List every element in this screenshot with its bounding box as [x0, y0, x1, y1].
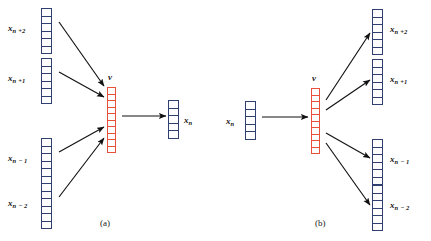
vector-cell	[41, 88, 52, 96]
arrow-layer	[0, 0, 431, 241]
vector-cell	[41, 66, 52, 74]
vector-cell	[372, 177, 383, 186]
arrow-xn-1-to-v	[59, 127, 104, 152]
label-hidden-b: v	[312, 73, 316, 83]
vector-cell	[41, 31, 52, 39]
arrow-v-to-xn+2	[326, 33, 370, 100]
vector-cell	[41, 8, 52, 16]
vector-cell	[372, 139, 383, 147]
vector-input-a-2	[41, 138, 52, 184]
vector-input-a-1	[41, 58, 52, 104]
vector-cell	[41, 38, 52, 46]
vector-cell	[372, 215, 383, 223]
arrow-v-to-xn-1	[326, 133, 370, 158]
label-output-b-3: xn − 2	[390, 195, 410, 212]
caption-panel-b: (b)	[315, 218, 326, 228]
vector-cell	[41, 213, 52, 221]
vector-cell	[41, 153, 52, 161]
vector-cell	[41, 221, 52, 230]
vector-cell	[41, 138, 52, 146]
vector-output-a-0	[168, 100, 179, 139]
vector-output-b-1	[372, 59, 383, 105]
vector-cell	[168, 108, 179, 116]
vector-cell	[41, 58, 52, 66]
vector-cell	[41, 146, 52, 154]
vector-cell	[245, 101, 256, 109]
vector-cell	[245, 116, 256, 124]
vector-cell	[372, 208, 383, 216]
vector-cell	[168, 130, 179, 139]
label-input-a-0: xn +2	[8, 18, 26, 35]
vector-cell	[245, 124, 256, 132]
vector-output-b-2	[372, 139, 383, 185]
vector-cell	[372, 47, 383, 56]
vector-cell	[41, 168, 52, 176]
vector-cell	[372, 32, 383, 40]
caption-panel-a: (a)	[100, 218, 110, 228]
label-output-a-0: xn	[184, 110, 192, 127]
vector-output-b-0	[372, 9, 383, 55]
vector-input-a-3	[41, 183, 52, 229]
vector-cell	[372, 200, 383, 208]
vector-cell	[245, 109, 256, 117]
vector-cell	[41, 73, 52, 81]
vector-input-a-0	[41, 8, 52, 54]
vector-cell	[372, 67, 383, 75]
vector-cell	[372, 162, 383, 170]
vector-cell	[41, 16, 52, 24]
vector-cell	[372, 89, 383, 97]
label-output-b-2: xn − 1	[390, 149, 410, 166]
vector-cell	[107, 146, 116, 154]
vector-cell	[372, 59, 383, 67]
vector-cell	[372, 185, 383, 193]
label-hidden-a: v	[108, 72, 112, 82]
vector-cell	[41, 81, 52, 89]
arrow-v-to-xn-2	[326, 143, 370, 205]
label-output-b-0: xn +2	[390, 19, 408, 36]
vector-cell	[372, 154, 383, 162]
label-input-b-0: xn	[226, 111, 234, 128]
vector-cell	[372, 82, 383, 90]
vector-cell	[372, 24, 383, 32]
vector-cell	[41, 183, 52, 191]
vector-cell	[168, 123, 179, 131]
vector-cell	[168, 100, 179, 108]
label-input-a-2: xn − 1	[8, 148, 28, 165]
vector-cell	[41, 46, 52, 55]
vector-input-b-0	[245, 101, 256, 140]
vector-cell	[41, 96, 52, 105]
vector-cell	[41, 206, 52, 214]
vector-cell	[41, 191, 52, 199]
vector-cell	[372, 97, 383, 106]
vector-cell	[311, 147, 320, 155]
vector-cell	[245, 131, 256, 140]
arrow-v-to-xn+1	[326, 80, 370, 110]
vector-hidden-b	[311, 88, 320, 154]
label-output-b-1: xn +1	[390, 69, 408, 86]
vector-cell	[372, 169, 383, 177]
vector-cell	[41, 23, 52, 31]
vector-cell	[372, 74, 383, 82]
vector-cell	[372, 17, 383, 25]
vector-cell	[168, 115, 179, 123]
vector-cell	[372, 193, 383, 201]
vector-cell	[372, 147, 383, 155]
vector-cell	[372, 9, 383, 17]
label-input-a-3: xn − 2	[8, 193, 28, 210]
figure-container: xn +2 xn +1 xn − 1 xn − 2 v xn (a) xn v …	[0, 0, 431, 241]
vector-cell	[372, 223, 383, 232]
vector-hidden-a	[107, 87, 116, 153]
arrow-xn-2-to-v	[59, 138, 104, 197]
vector-output-b-3	[372, 185, 383, 231]
vector-cell	[41, 161, 52, 169]
vector-cell	[41, 198, 52, 206]
label-input-a-1: xn +1	[8, 68, 26, 85]
vector-cell	[372, 39, 383, 47]
